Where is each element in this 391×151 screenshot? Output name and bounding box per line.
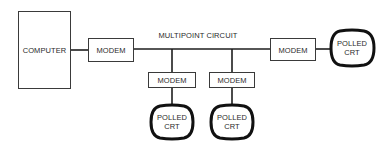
crt-drop-1-label-line2: CRT <box>164 122 180 131</box>
crt-drop-2-label-line1: POLLED <box>217 113 248 122</box>
modem-end-label: MODEM <box>278 46 307 55</box>
modem-drop-1-node: MODEM <box>149 73 196 88</box>
crt-drop-2-label-line2: CRT <box>224 122 240 131</box>
multipoint-circuit-diagram: COMPUTER MODEM MULTIPOINT CIRCUIT MODEM … <box>0 0 391 151</box>
modem-end-node: MODEM <box>271 39 316 61</box>
multipoint-circuit-label: MULTIPOINT CIRCUIT <box>158 31 237 40</box>
computer-node: COMPUTER <box>19 12 71 89</box>
polled-crt-end: POLLED CRT <box>331 30 374 66</box>
crt-end-label-line1: POLLED <box>337 39 368 48</box>
modem-drop-1-label: MODEM <box>157 76 186 85</box>
computer-label: COMPUTER <box>23 46 67 55</box>
crt-drop-1-label-line1: POLLED <box>157 113 188 122</box>
polled-crt-drop-2: POLLED CRT <box>211 105 253 139</box>
modem-host-label: MODEM <box>96 46 125 55</box>
crt-end-label-line2: CRT <box>344 48 360 57</box>
polled-crt-drop-1: POLLED CRT <box>151 105 193 139</box>
modem-drop-2-label: MODEM <box>217 76 246 85</box>
modem-host-node: MODEM <box>89 39 134 62</box>
modem-drop-2-node: MODEM <box>210 73 255 88</box>
